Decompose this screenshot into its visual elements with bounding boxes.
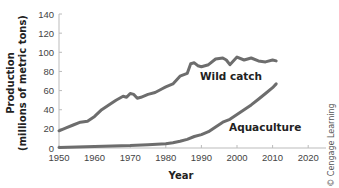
line-chart: 020406080100120140 195019601970198019902… <box>0 0 339 188</box>
x-tick-label: 1970 <box>120 152 141 163</box>
x-tick-label: 1960 <box>84 152 105 163</box>
wild-catch-line <box>59 57 276 131</box>
x-tick-label: 1990 <box>191 152 212 163</box>
aquaculture-label: Aquaculture <box>229 121 301 133</box>
y-axis-title-line1: Production <box>5 52 16 114</box>
y-tick-label: 40 <box>43 104 54 115</box>
x-tick-label: 1950 <box>48 152 69 163</box>
x-tick-label: 1980 <box>155 152 176 163</box>
x-tick-label: 2010 <box>262 152 283 163</box>
y-tick-label: 60 <box>43 85 54 96</box>
y-tick-label: 100 <box>38 47 54 58</box>
aquaculture-line <box>59 84 276 148</box>
copyright-credit: © Cengage Learning <box>327 103 336 186</box>
wild-catch-label: Wild catch <box>200 70 262 82</box>
y-tick-label: 20 <box>43 123 54 134</box>
x-axis-title: Year <box>168 170 194 181</box>
y-axis-title-line2: (millions of metric tons) <box>17 15 28 151</box>
y-tick-label: 80 <box>43 66 54 77</box>
y-tick-label: 140 <box>38 9 54 20</box>
y-tick-label: 120 <box>38 28 54 39</box>
x-tick-label: 2020 <box>298 152 319 163</box>
x-tick-label: 2000 <box>226 152 247 163</box>
